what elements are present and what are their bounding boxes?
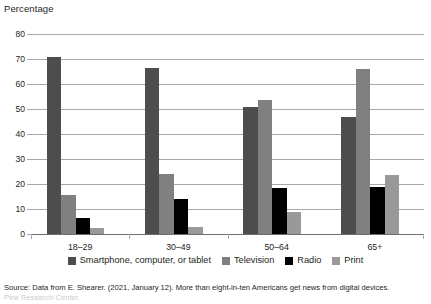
bars xyxy=(129,34,227,234)
legend-label-2: Television xyxy=(234,256,274,265)
bar-3-series-4[interactable] xyxy=(287,212,301,235)
x-tick-mark-4 xyxy=(423,234,424,239)
bar-group-3: 50–64 xyxy=(228,34,326,234)
source-note-line-2: Pew Research Center. xyxy=(4,293,428,303)
y-tick-label-40: 40 xyxy=(15,130,25,139)
bar-2-series-2[interactable] xyxy=(159,174,173,234)
legend-swatch-icon-4 xyxy=(332,257,340,265)
legend-label-4: Print xyxy=(344,256,363,265)
bar-3-series-1[interactable] xyxy=(243,107,257,235)
chart-legend: Smartphone, computer, or tabletTelevisio… xyxy=(0,256,431,265)
bar-2-series-3[interactable] xyxy=(174,199,188,234)
bar-2-series-1[interactable] xyxy=(145,68,159,234)
legend-item-4[interactable]: Print xyxy=(332,256,363,265)
x-tick-mark-2 xyxy=(129,234,130,239)
bar-3-series-3[interactable] xyxy=(272,188,286,234)
bar-1-series-3[interactable] xyxy=(76,218,90,234)
x-axis-label-1: 18–29 xyxy=(31,242,129,252)
y-tick-label-10: 10 xyxy=(15,205,25,214)
y-tick-label-50: 50 xyxy=(15,105,25,114)
bar-4-series-3[interactable] xyxy=(370,187,384,235)
x-axis-label-3: 50–64 xyxy=(228,242,326,252)
y-tick-label-70: 70 xyxy=(15,55,25,64)
legend-label-3: Radio xyxy=(297,256,321,265)
source-note-line-1: Source: Data from E. Shearer. (2021, Jan… xyxy=(4,283,428,293)
x-tick-mark-0 xyxy=(31,234,32,239)
y-tick-label-30: 30 xyxy=(15,155,25,164)
y-tick-label-80: 80 xyxy=(15,30,25,39)
y-tick-label-60: 60 xyxy=(15,80,25,89)
legend-swatch-icon-3 xyxy=(285,257,293,265)
source-note: Source: Data from E. Shearer. (2021, Jan… xyxy=(4,283,428,304)
bar-1-series-4[interactable] xyxy=(90,228,104,234)
y-axis-title: Percentage xyxy=(4,3,54,14)
plot-area: 01020304050607080 18–2930–4950–6465+ xyxy=(31,34,424,234)
bar-groups: 18–2930–4950–6465+ xyxy=(31,34,424,234)
x-axis-label-2: 30–49 xyxy=(129,242,227,252)
bar-4-series-2[interactable] xyxy=(356,69,370,234)
bars xyxy=(31,34,129,234)
y-tick-label-0: 0 xyxy=(20,230,25,239)
x-tick-mark-3 xyxy=(228,234,229,239)
bar-group-4: 65+ xyxy=(326,34,424,234)
legend-swatch-icon-1 xyxy=(68,257,76,265)
bar-4-series-1[interactable] xyxy=(341,117,355,235)
legend-item-2[interactable]: Television xyxy=(222,256,274,265)
bar-group-1: 18–29 xyxy=(31,34,129,234)
bar-2-series-4[interactable] xyxy=(188,227,202,235)
legend-label-1: Smartphone, computer, or tablet xyxy=(80,256,211,265)
bar-group-2: 30–49 xyxy=(129,34,227,234)
x-axis-label-4: 65+ xyxy=(326,242,424,252)
legend-swatch-icon-2 xyxy=(222,257,230,265)
bar-4-series-4[interactable] xyxy=(385,175,399,234)
legend-item-3[interactable]: Radio xyxy=(285,256,321,265)
bars xyxy=(228,34,326,234)
bars xyxy=(326,34,424,234)
y-tick-label-20: 20 xyxy=(15,180,25,189)
legend-item-1[interactable]: Smartphone, computer, or tablet xyxy=(68,256,211,265)
bar-3-series-2[interactable] xyxy=(258,100,272,234)
bar-1-series-2[interactable] xyxy=(61,195,75,234)
bar-1-series-1[interactable] xyxy=(47,57,61,235)
